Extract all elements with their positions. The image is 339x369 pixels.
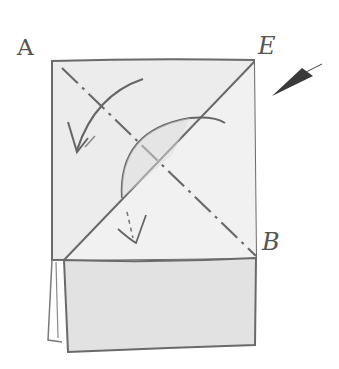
folded-flap xyxy=(64,258,256,352)
label-a: A xyxy=(17,36,34,59)
label-e: E xyxy=(258,34,276,58)
pointer-wedge-icon xyxy=(272,68,313,96)
pointer-line-icon xyxy=(306,64,322,72)
origami-diagram: A E B xyxy=(0,0,339,369)
flap-layer-edge xyxy=(56,262,58,338)
label-b: B xyxy=(262,230,280,254)
diagram-svg xyxy=(0,0,339,369)
flap-layer-edge xyxy=(48,260,62,342)
